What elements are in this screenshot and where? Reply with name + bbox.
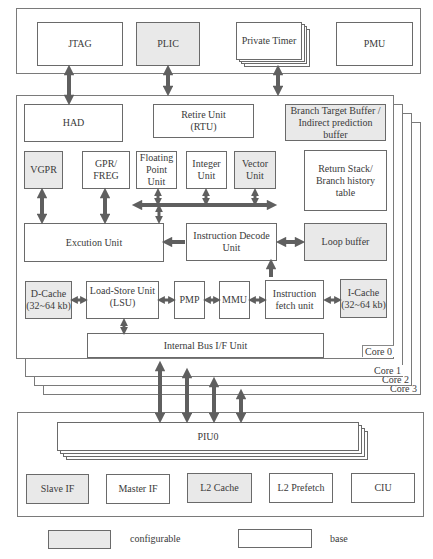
connection-arrows bbox=[0, 0, 433, 559]
